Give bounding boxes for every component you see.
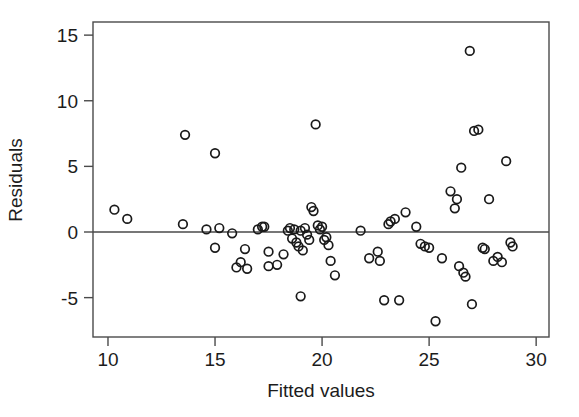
data-point bbox=[211, 149, 220, 158]
data-point bbox=[380, 296, 389, 305]
data-point bbox=[181, 131, 190, 140]
scatter-plot-svg: 1015202530 -5051015 Fitted values Residu… bbox=[0, 0, 579, 417]
data-point bbox=[401, 208, 410, 217]
x-tick-label: 15 bbox=[204, 349, 225, 370]
data-point bbox=[395, 296, 404, 305]
data-point bbox=[365, 254, 374, 263]
y-axis-ticks bbox=[84, 35, 93, 298]
data-point bbox=[311, 120, 320, 129]
data-point bbox=[273, 261, 282, 270]
plot-border bbox=[93, 22, 549, 337]
data-point bbox=[468, 300, 477, 309]
y-tick-label: -5 bbox=[61, 288, 78, 309]
data-point bbox=[215, 224, 224, 233]
data-point bbox=[305, 236, 314, 245]
x-axis-ticks bbox=[108, 337, 536, 346]
data-point bbox=[211, 243, 220, 252]
data-point bbox=[376, 257, 385, 266]
residuals-vs-fitted-chart: 1015202530 -5051015 Fitted values Residu… bbox=[0, 0, 579, 417]
x-tick-label: 25 bbox=[419, 349, 440, 370]
data-point bbox=[457, 163, 466, 172]
y-tick-label: 10 bbox=[57, 91, 78, 112]
data-point bbox=[412, 222, 421, 231]
y-axis-tick-labels: -5051015 bbox=[57, 25, 78, 309]
x-axis-tick-labels: 1015202530 bbox=[97, 349, 546, 370]
data-point bbox=[356, 226, 365, 235]
data-point bbox=[179, 220, 188, 229]
data-point bbox=[264, 262, 273, 271]
data-point bbox=[110, 205, 119, 214]
data-point bbox=[465, 47, 474, 56]
x-tick-label: 30 bbox=[526, 349, 547, 370]
y-tick-label: 5 bbox=[67, 156, 78, 177]
data-point bbox=[485, 195, 494, 204]
data-point bbox=[373, 247, 382, 256]
data-point bbox=[264, 247, 273, 256]
data-point bbox=[431, 317, 440, 326]
data-point bbox=[326, 257, 335, 266]
x-tick-label: 20 bbox=[312, 349, 333, 370]
y-tick-label: 15 bbox=[57, 25, 78, 46]
data-point bbox=[279, 250, 288, 259]
data-point bbox=[228, 229, 237, 238]
data-point bbox=[438, 254, 447, 263]
y-axis-title: Residuals bbox=[5, 138, 26, 221]
data-point bbox=[446, 187, 455, 196]
data-point bbox=[451, 204, 460, 213]
data-point bbox=[296, 292, 305, 301]
data-point bbox=[453, 195, 462, 204]
data-point-series bbox=[110, 47, 517, 326]
data-point bbox=[243, 264, 252, 273]
data-point bbox=[331, 271, 340, 280]
data-point bbox=[123, 215, 132, 224]
x-tick-label: 10 bbox=[97, 349, 118, 370]
y-tick-label: 0 bbox=[67, 222, 78, 243]
plot-frame bbox=[93, 22, 549, 337]
data-point bbox=[241, 245, 250, 254]
data-point bbox=[502, 157, 511, 166]
x-axis-title: Fitted values bbox=[267, 380, 375, 401]
